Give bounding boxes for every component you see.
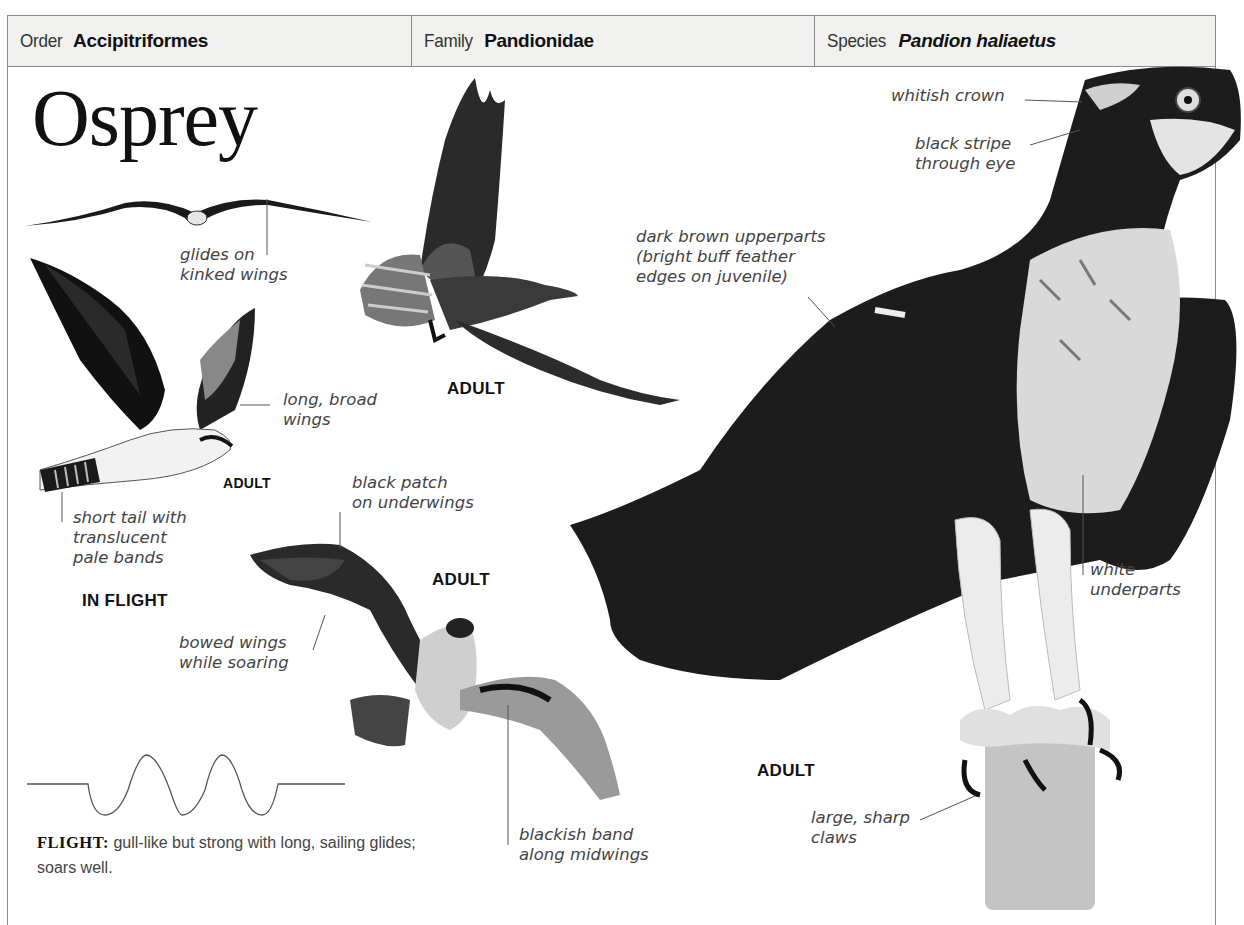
tag-in-flight: IN FLIGHT xyxy=(82,591,168,611)
banking-adult-illustration xyxy=(360,78,680,405)
tag-adult-soaring: ADULT xyxy=(432,570,490,590)
note-black-stripe: black stripe through eye xyxy=(915,134,1016,174)
note-claws: large, sharp claws xyxy=(811,808,910,848)
note-white-underparts: white underparts xyxy=(1090,560,1181,600)
tag-adult-perched: ADULT xyxy=(757,761,815,781)
flight-description: FLIGHT: gull-like but strong with long, … xyxy=(37,830,417,880)
note-blackish-band: blackish band along midwings xyxy=(519,825,649,865)
gliding-bird-illustration xyxy=(25,200,372,226)
note-whitish-crown: whitish crown xyxy=(891,86,1005,106)
perched-adult-illustration xyxy=(570,67,1241,910)
flight-pattern-line xyxy=(27,755,345,815)
note-short-tail: short tail with translucent pale bands xyxy=(73,508,187,568)
note-long-broad: long, broad wings xyxy=(283,390,377,430)
tag-adult-side-flight: ADULT xyxy=(223,475,271,491)
note-bowed-wings: bowed wings while soaring xyxy=(179,633,289,673)
note-dark-brown: dark brown upperparts (bright buff feath… xyxy=(636,227,826,287)
flight-label: FLIGHT: xyxy=(37,833,109,852)
side-flight-adult-illustration xyxy=(30,258,255,492)
note-black-patch: black patch on underwings xyxy=(352,473,474,513)
note-glides: glides on kinked wings xyxy=(180,245,288,285)
tag-adult-banking: ADULT xyxy=(447,379,505,399)
